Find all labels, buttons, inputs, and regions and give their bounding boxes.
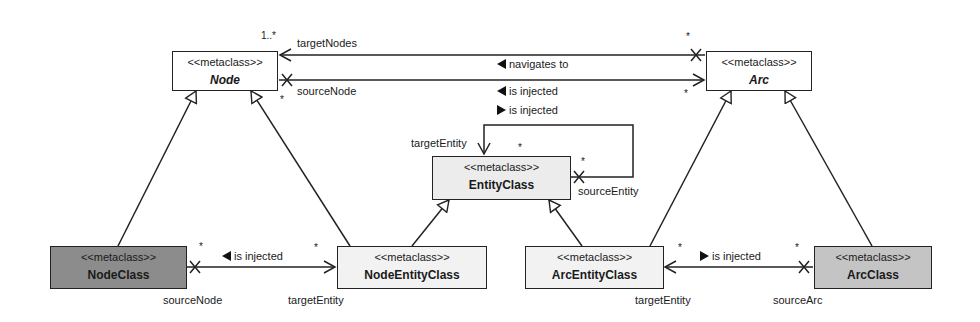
multiplicity-label: 1..*	[261, 30, 276, 41]
class-name: NodeClass	[51, 266, 186, 284]
multiplicity-label: *	[686, 31, 690, 42]
stereotype-label: <<metaclass>>	[433, 161, 570, 174]
stereotype-label: <<metaclass>>	[526, 251, 663, 264]
generalization-arcentityclass-to-entityclass	[549, 200, 582, 246]
class-arc-entity-class[interactable]: <<metaclass>> ArcEntityClass	[525, 246, 664, 289]
role-label-target-entity: targetEntity	[288, 294, 344, 306]
class-node-class[interactable]: <<metaclass>> NodeClass	[50, 246, 187, 289]
class-name: ArcClass	[815, 266, 931, 284]
direction-left-icon	[222, 251, 231, 261]
role-label-source-entity: sourceEntity	[578, 185, 639, 197]
direction-left-icon	[497, 59, 506, 69]
class-name: NodeEntityClass	[338, 266, 486, 284]
association-name-arc-injection: is injected	[700, 250, 761, 262]
multiplicity-label: *	[581, 156, 585, 167]
class-name: Arc	[707, 71, 811, 89]
generalization-nodeentityclass-to-entityclass	[412, 200, 449, 246]
multiplicity-label: *	[518, 142, 522, 153]
class-name: Node	[173, 71, 277, 89]
multiplicity-label: *	[280, 94, 284, 105]
multiplicity-label: *	[314, 242, 318, 253]
generalization-arcentityclass-to-arc	[650, 91, 731, 246]
multiplicity-label: *	[684, 88, 688, 99]
association-name-is-injected-left: is injected	[497, 85, 558, 97]
role-label-target-entity: targetEntity	[635, 294, 691, 306]
role-label-source-node: sourceNode	[297, 85, 356, 97]
class-arc[interactable]: <<metaclass>> Arc	[706, 51, 812, 91]
class-node-entity-class[interactable]: <<metaclass>> NodeEntityClass	[337, 246, 487, 289]
class-name: ArcEntityClass	[526, 266, 663, 284]
association-name-node-injection: is injected	[222, 250, 283, 262]
stereotype-label: <<metaclass>>	[51, 251, 186, 264]
role-label-target-entity: targetEntity	[411, 137, 467, 149]
generalization-arcclass-to-arc	[785, 91, 872, 246]
class-arc-class[interactable]: <<metaclass>> ArcClass	[814, 246, 932, 289]
direction-right-icon	[700, 251, 709, 261]
direction-left-icon	[497, 86, 506, 96]
stereotype-label: <<metaclass>>	[707, 56, 811, 69]
stereotype-label: <<metaclass>>	[338, 251, 486, 264]
direction-right-icon	[497, 105, 506, 115]
stereotype-label: <<metaclass>>	[815, 251, 931, 264]
association-name-is-injected-right: is injected	[497, 104, 558, 116]
role-label-source-arc: sourceArc	[773, 294, 823, 306]
stereotype-label: <<metaclass>>	[173, 56, 277, 69]
generalization-nodeclass-to-node	[118, 91, 196, 246]
class-entity-class[interactable]: <<metaclass>> EntityClass	[432, 156, 571, 200]
multiplicity-label: *	[199, 241, 203, 252]
generalization-nodeentityclass-to-node	[251, 91, 350, 246]
multiplicity-label: *	[795, 242, 799, 253]
class-node[interactable]: <<metaclass>> Node	[172, 51, 278, 91]
multiplicity-label: *	[678, 242, 682, 253]
association-name-navigates-to: navigates to	[497, 58, 568, 70]
class-name: EntityClass	[433, 176, 570, 194]
role-label-target-nodes: targetNodes	[297, 37, 357, 49]
role-label-source-node: sourceNode	[163, 294, 222, 306]
